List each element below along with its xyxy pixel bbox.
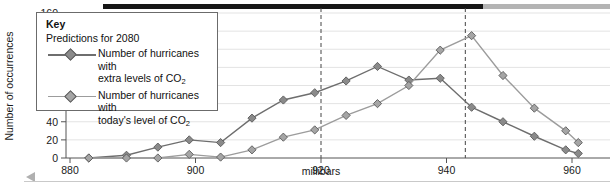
x-tick-label: 960 xyxy=(563,164,581,176)
legend-subtitle: Predictions for 2080 xyxy=(46,32,210,45)
data-point-marker xyxy=(217,153,225,161)
data-point-marker xyxy=(562,146,570,154)
data-point-marker xyxy=(574,149,582,157)
data-point-marker xyxy=(311,89,319,97)
y-tick-label: 0 xyxy=(52,152,58,164)
legend-entry-today-co2: Number of hurricanes with today's level … xyxy=(46,89,210,129)
data-point-marker xyxy=(499,118,507,126)
data-point-marker xyxy=(373,62,381,70)
data-point-marker xyxy=(342,111,350,119)
hurricane-frequency-chart: 020406080100120140160 880900920940960 Nu… xyxy=(0,0,610,187)
data-point-marker xyxy=(154,154,162,162)
legend-label-extra-co2: Number of hurricanes with extra levels o… xyxy=(98,47,210,87)
x-tick-label: 900 xyxy=(187,164,205,176)
y-tick-label: 20 xyxy=(46,134,58,146)
x-tick-label: 940 xyxy=(438,164,456,176)
legend-swatch-extra-co2 xyxy=(46,48,98,62)
data-point-marker xyxy=(185,150,193,158)
data-point-marker xyxy=(185,136,193,144)
legend-title: Key xyxy=(46,18,210,30)
data-point-marker xyxy=(85,154,93,162)
data-point-marker xyxy=(342,77,350,85)
footer-rule xyxy=(24,181,610,182)
y-axis-title: Number of occurrences xyxy=(3,31,15,140)
legend-label-today-co2: Number of hurricanes with today's level … xyxy=(98,89,210,129)
legend-swatch-today-co2 xyxy=(46,90,98,104)
x-tick-label: 880 xyxy=(61,164,79,176)
data-point-marker xyxy=(530,132,538,140)
data-point-marker xyxy=(311,126,319,134)
legend-entry-extra-co2: Number of hurricanes with extra levels o… xyxy=(46,47,210,87)
x-axis-title: millibars xyxy=(302,165,341,177)
data-point-marker xyxy=(373,100,381,108)
data-point-marker xyxy=(154,143,162,151)
chart-legend: Key Predictions for 2080 Number of hurri… xyxy=(36,12,218,111)
data-point-marker xyxy=(248,146,256,154)
data-point-marker xyxy=(279,96,287,104)
